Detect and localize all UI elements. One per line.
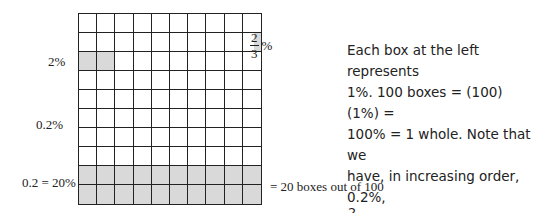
- grid-box: [79, 14, 97, 33]
- grid-box: [188, 52, 206, 71]
- grid-box: [243, 128, 261, 147]
- grid-box: [115, 14, 133, 33]
- grid-box: [170, 185, 188, 204]
- grid-box: [170, 90, 188, 109]
- grid-box: [134, 166, 152, 185]
- fraction-two-thirds: 2 3: [250, 31, 259, 60]
- grid-box: [170, 166, 188, 185]
- grid-box: [134, 128, 152, 147]
- grid-box: [79, 33, 97, 52]
- grid-box: [188, 90, 206, 109]
- grid-box: [134, 71, 152, 90]
- grid-box: [206, 128, 224, 147]
- grid-box: [115, 166, 133, 185]
- grid-box: [115, 109, 133, 128]
- description-line: 100% = 1 whole. Note that we: [347, 124, 532, 166]
- grid-box: [115, 90, 133, 109]
- grid-box: [79, 90, 97, 109]
- grid-box: [79, 147, 97, 166]
- grid-box: [243, 147, 261, 166]
- grid-box: [225, 128, 243, 147]
- grid-box: [243, 185, 261, 204]
- grid-box: [152, 147, 170, 166]
- grid-box: [115, 185, 133, 204]
- label-twenty-percent: 0.2 = 20%: [22, 176, 76, 189]
- grid-box: [206, 109, 224, 128]
- description-line: have, in increasing order, 0.2%,: [347, 166, 532, 208]
- grid-box: [115, 128, 133, 147]
- grid-box: [97, 14, 115, 33]
- grid-box: [97, 147, 115, 166]
- description-text: Each box at the left represents 1%. 100 …: [347, 40, 532, 213]
- description-line: 1%. 100 boxes = (100)(1%) =: [347, 82, 532, 124]
- grid-box: [97, 166, 115, 185]
- grid-box: [115, 147, 133, 166]
- grid-box: [97, 128, 115, 147]
- grid-box: [206, 71, 224, 90]
- grid-box: [115, 52, 133, 71]
- grid-box: [97, 52, 115, 71]
- grid-box: [152, 90, 170, 109]
- grid-box: [97, 33, 115, 52]
- description-line-rest: %, 2%, and 20%.: [358, 212, 473, 214]
- grid-box: [79, 52, 97, 71]
- grid-box: [170, 52, 188, 71]
- grid-box: [152, 14, 170, 33]
- fraction-denominator: 3: [251, 46, 258, 60]
- grid-box: [188, 33, 206, 52]
- grid-box: [170, 71, 188, 90]
- fraction-numerator: 2: [347, 206, 357, 213]
- grid-box: [206, 52, 224, 71]
- grid-box: [79, 109, 97, 128]
- grid-box: [97, 185, 115, 204]
- grid-box: [170, 128, 188, 147]
- label-point-two-percent: 0.2%: [36, 118, 63, 131]
- percent-suffix: %: [262, 38, 273, 53]
- grid-box: [152, 185, 170, 204]
- label-two-thirds-percent: 2 3 %: [250, 31, 272, 60]
- fraction-numerator: 2: [250, 31, 259, 46]
- grid-box: [188, 109, 206, 128]
- grid-box: [188, 185, 206, 204]
- grid-box: [206, 14, 224, 33]
- grid-box: [79, 166, 97, 185]
- grid-box: [170, 33, 188, 52]
- grid-box: [188, 166, 206, 185]
- grid-box: [225, 90, 243, 109]
- grid-box: [243, 109, 261, 128]
- grid-box: [97, 109, 115, 128]
- grid-box: [79, 128, 97, 147]
- grid-box: [170, 147, 188, 166]
- grid-box: [225, 147, 243, 166]
- grid-box: [134, 52, 152, 71]
- grid-box: [206, 185, 224, 204]
- grid-box: [225, 71, 243, 90]
- grid-box: [188, 128, 206, 147]
- label-two-percent: 2%: [48, 55, 65, 68]
- description-line: 2 3 %, 2%, and 20%.: [347, 206, 532, 213]
- grid-box: [134, 90, 152, 109]
- grid-box: [152, 128, 170, 147]
- grid-box: [134, 109, 152, 128]
- grid-box: [225, 166, 243, 185]
- grid-box: [206, 33, 224, 52]
- grid-box: [134, 14, 152, 33]
- grid-box: [97, 90, 115, 109]
- grid-box: [225, 109, 243, 128]
- grid-box: [115, 33, 133, 52]
- grid-box: [243, 90, 261, 109]
- grid-box: [188, 14, 206, 33]
- grid-box: [206, 147, 224, 166]
- grid-box: [97, 71, 115, 90]
- grid-box: [225, 14, 243, 33]
- grid-box: [134, 185, 152, 204]
- grid-box: [170, 109, 188, 128]
- grid-box: [152, 166, 170, 185]
- fraction-two-thirds: 2 3: [347, 206, 357, 213]
- grid-box: [206, 90, 224, 109]
- grid-box: [243, 71, 261, 90]
- grid-box: [152, 71, 170, 90]
- grid-box: [225, 185, 243, 204]
- grid-box: [243, 166, 261, 185]
- grid-box: [170, 14, 188, 33]
